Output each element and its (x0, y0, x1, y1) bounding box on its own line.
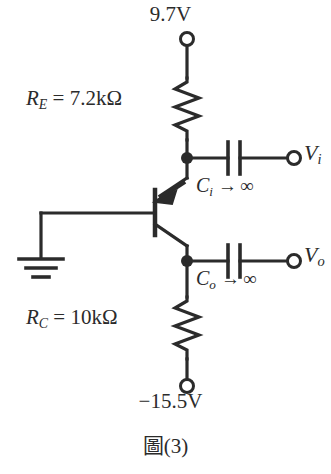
figure-caption: 圖(3) (0, 436, 331, 457)
vo-terminal-node (288, 255, 301, 268)
rc-subscript: C (39, 316, 48, 331)
ci-symbol: C (196, 174, 209, 196)
re-symbol: R (26, 86, 39, 110)
resistor-rc-label: RC = 10kΩ (26, 307, 118, 331)
re-equals: = (53, 86, 65, 110)
co-subscript: o (209, 277, 216, 292)
re-subscript: E (39, 97, 47, 112)
vee-supply-value: −15.5V (139, 389, 203, 413)
resistor-re-zigzag (175, 78, 199, 140)
capacitor-co-label: Co→∞ (196, 268, 256, 291)
transistor-collector-lead (155, 224, 187, 246)
vcc-supply-label: 9.7V (0, 4, 331, 25)
resistor-rc-zigzag (175, 297, 199, 359)
co-value: ∞ (243, 268, 257, 289)
vi-symbol: V (304, 140, 317, 165)
output-port-label: Vo (304, 244, 325, 269)
vo-symbol: V (304, 242, 317, 267)
circuit-diagram-figure: 9.7V −15.5V RE = 7.2kΩ RC = 10kΩ Ci→∞ Co… (0, 0, 331, 474)
vcc-terminal-node (181, 33, 194, 46)
ci-value: ∞ (240, 175, 254, 196)
rc-symbol: R (26, 305, 39, 329)
rc-value: 10kΩ (70, 305, 117, 329)
vo-subscript: o (317, 253, 324, 269)
ci-arrow-icon: → (213, 175, 240, 196)
rc-equals: = (53, 305, 65, 329)
co-symbol: C (196, 267, 209, 289)
input-port-label: Vi (304, 142, 322, 167)
vi-subscript: i (317, 151, 321, 167)
vee-supply-label: −15.5V (0, 391, 331, 412)
figure-caption-cjk: 圖 (143, 434, 164, 458)
re-value: 7.2kΩ (70, 86, 122, 110)
resistor-re-label: RE = 7.2kΩ (26, 88, 122, 112)
vcc-supply-value: 9.7V (150, 2, 191, 26)
figure-caption-number: (3) (164, 434, 189, 458)
co-arrow-icon: → (216, 268, 243, 289)
vi-terminal-node (288, 152, 301, 165)
capacitor-ci-label: Ci→∞ (196, 175, 254, 198)
